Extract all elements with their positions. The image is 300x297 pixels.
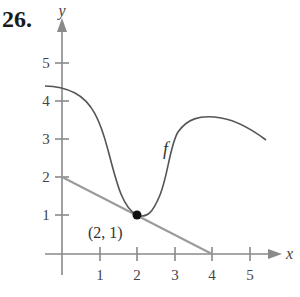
x-tick-label-3: 3 xyxy=(171,267,179,283)
tangent-point-marker xyxy=(133,211,142,220)
point-label: (2, 1) xyxy=(88,224,123,242)
y-tick-label-2: 2 xyxy=(42,169,50,185)
x-tick-label-5: 5 xyxy=(246,267,254,283)
y-tick-label-4: 4 xyxy=(42,93,50,109)
y-axis-arrow-icon xyxy=(57,18,67,32)
x-tick-label-2: 2 xyxy=(133,267,141,283)
y-tick-label-3: 3 xyxy=(42,131,50,147)
function-graph: 1 2 3 4 5 1 2 3 4 5 x y (2, 1) f xyxy=(0,0,300,297)
y-tick-label-5: 5 xyxy=(42,55,50,71)
x-axis-arrow-icon xyxy=(268,249,282,259)
y-tick-label-1: 1 xyxy=(42,207,50,223)
x-tick-label-1: 1 xyxy=(96,267,104,283)
x-axis-label: x xyxy=(285,245,293,262)
function-f-curve xyxy=(45,86,266,216)
y-axis-label: y xyxy=(56,2,66,20)
x-tick-label-4: 4 xyxy=(208,267,216,283)
